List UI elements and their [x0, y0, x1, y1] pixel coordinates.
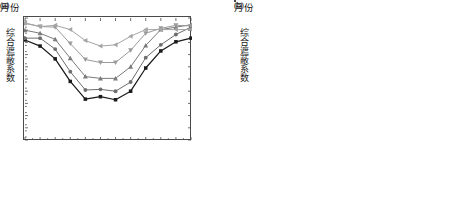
panel-a-caption: (a) — [0, 0, 9, 10]
panel-a-plot-area — [23, 16, 191, 140]
panel-a: 综合遮蔽系数 月份 (a) — [0, 0, 234, 206]
panel-b-caption: (b) — [234, 0, 244, 10]
panel-a-y-axis-label: 综合遮蔽系数 — [1, 28, 14, 82]
figure-two-panel-line-charts: 综合遮蔽系数 月份 (a) 综合遮蔽系数 月份 (b) — [0, 0, 469, 206]
panel-b-plot-svg — [235, 1, 469, 151]
panel-b: 综合遮蔽系数 月份 (b) — [234, 0, 469, 206]
panel-a-plot-svg — [24, 17, 192, 141]
